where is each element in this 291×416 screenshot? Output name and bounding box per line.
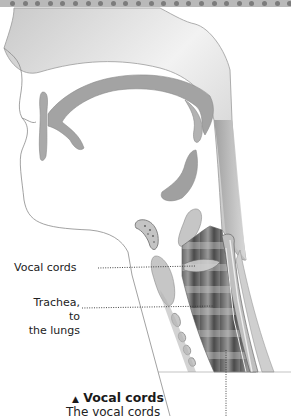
lip-tissue — [39, 92, 47, 161]
caption-body: The vocal cords — [66, 405, 160, 416]
label-trachea: Trachea, to the lungs — [20, 296, 80, 338]
label-vocal-cords-text: Vocal cords — [14, 261, 77, 274]
caption-title: ▲ Vocal cords — [72, 390, 164, 405]
epiglottis — [161, 150, 197, 201]
hyoid-bone — [135, 220, 158, 250]
palate-arch — [48, 75, 213, 150]
label-vocal-cords: Vocal cords — [14, 261, 77, 275]
caption-title-text: Vocal cords — [83, 390, 164, 405]
label-trachea-line2: the lungs — [20, 324, 80, 338]
anatomy-illustration — [0, 0, 291, 416]
label-trachea-line1: Trachea, to — [20, 296, 80, 324]
vocal-cords-leader — [98, 266, 196, 268]
triangle-up-icon: ▲ — [72, 394, 79, 404]
